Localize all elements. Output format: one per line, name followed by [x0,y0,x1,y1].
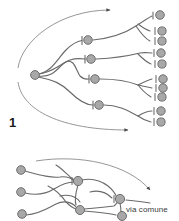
branch-b2-to-t4 [96,53,152,59]
figure-root: 1 via comune [0,0,179,221]
input-node-i2 [17,188,26,197]
terminal-node-t3 [158,37,166,45]
edge-h1-h2 [75,185,78,205]
hub-node-h1 [73,176,82,185]
branch-root-to-b3 [38,61,89,79]
terminal-node-t5 [158,60,166,68]
terminal-node-t6 [159,75,167,83]
terminal-node-t8 [158,93,166,101]
terminal-nodes-group [156,11,168,126]
edge-h2-h4 [84,211,116,215]
input-nodes-group [17,166,27,219]
root-node [31,71,40,80]
branch-b2-to-t5 [138,54,151,64]
terminal-ticks-group [153,12,156,126]
input-node-i3 [18,210,27,219]
hub-node-h3 [115,194,124,203]
branch-node-b1 [84,36,93,45]
terminal-node-t10 [157,118,165,126]
edge-i2-h1 [25,182,74,194]
branch-b4-to-t10 [138,116,151,122]
terminal-node-t7 [159,84,167,92]
terminal-node-t2 [158,27,166,35]
edge-h1-h3 [82,179,117,198]
top-panel-group [18,10,167,130]
diagram-canvas [0,0,179,221]
branch-node-b2 [87,55,96,64]
level1-nodes-group [84,36,104,110]
common-pathway-arrow [36,159,150,190]
branch-node-b3 [91,75,100,84]
via-comune-caption: via comune [126,206,168,214]
branch-root-to-b1 [38,41,82,75]
terminal-node-t1 [156,11,165,20]
edge-top-into-h1 [56,165,74,180]
primary-branches-group [38,41,93,106]
junction-ticks-group [82,37,93,110]
terminal-node-t9 [157,107,165,115]
input-node-i1 [17,166,26,175]
edge-h3-outflow [126,200,150,203]
hub-nodes-group [73,176,126,220]
branch-b1-to-t3 [136,26,150,41]
edge-secondary-bridge [90,191,112,198]
branch-b1-to-t2 [138,24,150,31]
branch-b3-to-t6 [100,79,152,85]
envelope-arrows-group [18,10,128,130]
branch-node-b4 [95,101,104,110]
terminal-node-t4 [157,49,165,57]
hub-node-h2 [76,206,85,215]
branch-root-to-b4 [38,77,93,105]
panel-number-label: 1 [9,116,16,129]
edge-i1-h1 [25,171,74,181]
branch-b4-to-t9 [104,105,152,116]
